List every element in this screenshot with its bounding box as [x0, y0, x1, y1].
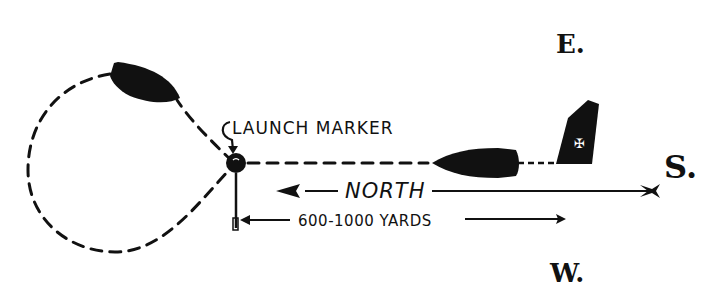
north-label: NORTH: [345, 179, 425, 203]
sail-target-icon: [556, 100, 599, 164]
compass-east-label: E.: [556, 29, 585, 59]
compass-south-label: S.: [664, 148, 697, 186]
boat-course-diagram: E. W. S. LAUNCH MARKER ✠ NORTH 600-1000 …: [0, 0, 718, 298]
distance-label: 600-1000 YARDS: [298, 212, 432, 230]
launch-marker-pointer-head: [228, 146, 238, 154]
turning-loop-path: [28, 74, 233, 252]
north-arrow-head: [276, 184, 300, 198]
launch-marker-buoy-icon: [226, 153, 246, 230]
boat-approach-icon: [432, 148, 519, 178]
boat-loop-icon: [110, 62, 180, 102]
launch-marker-label: LAUNCH MARKER: [232, 118, 394, 138]
sail-emblem-icon: ✠: [574, 136, 585, 151]
compass-west-label: W.: [549, 258, 584, 288]
distance-arrow-left-head: [240, 215, 250, 225]
